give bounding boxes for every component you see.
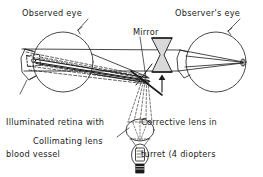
mirror-leader-line bbox=[140, 37, 146, 78]
label-illuminated-retina-line1: Illuminated retina with bbox=[6, 117, 104, 128]
label-observed-eye: Observed eye bbox=[22, 8, 82, 19]
optical-diagram-figure: Observed eye Observer's eye Mirror Illum… bbox=[0, 0, 263, 177]
label-corrective-lens-line1: Corrective lens in bbox=[141, 117, 217, 128]
collimating-lens-ray-a bbox=[133, 123, 139, 139]
label-observers-eye: Observer's eye bbox=[175, 8, 240, 19]
label-corrective-lens-line2: turret (4 diopters bbox=[141, 149, 217, 160]
corrective-lens-group bbox=[152, 38, 172, 72]
turret-arrow-group bbox=[159, 75, 166, 93]
leader-observers-eye bbox=[228, 19, 240, 31]
turret-arrow-head bbox=[159, 75, 166, 81]
label-corrective-lens: Corrective lens in turret (4 diopters fo… bbox=[141, 96, 217, 177]
label-illuminated-retina-line2: blood vessel bbox=[6, 149, 104, 160]
observed-eye-cornea-edge-bottom bbox=[30, 76, 36, 79]
leader-collimating bbox=[117, 128, 129, 137]
leader-observed-eye bbox=[78, 19, 88, 30]
corrective-lens-body bbox=[152, 38, 172, 72]
label-mirror: Mirror bbox=[133, 27, 159, 38]
leader-retina bbox=[20, 80, 27, 94]
label-collimating-lens: Collimating lens bbox=[33, 136, 103, 147]
beam-upper-rail bbox=[22, 49, 180, 50]
observed-eye-globe bbox=[33, 32, 93, 92]
cone-edge-left bbox=[128, 80, 142, 122]
observers-eye-group bbox=[177, 32, 246, 92]
dashed-ray-2 bbox=[27, 56, 146, 79]
